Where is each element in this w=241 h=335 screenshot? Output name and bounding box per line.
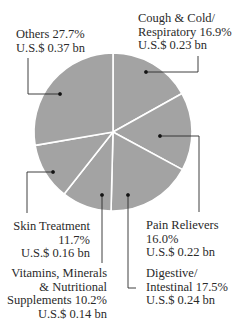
label-others-line2: U.S.$ 0.37 bn bbox=[16, 42, 85, 56]
leader-dot-vitamins bbox=[100, 193, 103, 196]
label-skin-line1: Skin Treatment bbox=[13, 220, 90, 234]
label-pain-line1: Pain Relievers bbox=[146, 219, 219, 233]
label-pain: Pain Relievers 16.0% U.S.$ 0.22 bn bbox=[146, 219, 219, 260]
label-vitamins-line1: Vitamins, Minerals bbox=[7, 267, 107, 281]
label-digestive-line3: U.S.$ 0.24 bn bbox=[146, 294, 228, 308]
pie-slice bbox=[34, 53, 113, 145]
label-pain-line3: U.S.$ 0.22 bn bbox=[146, 246, 219, 260]
label-skin-line2: 11.7% bbox=[13, 234, 90, 248]
label-skin-line3: U.S.$ 0.16 bn bbox=[13, 247, 90, 261]
label-others-line1: Others 27.7% bbox=[16, 28, 85, 42]
label-cough: Cough & Cold/ Respiratory 16.9% U.S.$ 0.… bbox=[138, 12, 232, 53]
label-digestive: Digestive/ Intestinal 17.5% U.S.$ 0.24 b… bbox=[146, 267, 228, 308]
label-digestive-line2: Intestinal 17.5% bbox=[146, 281, 228, 295]
label-vitamins-line4: U.S.$ 0.14 bn bbox=[7, 308, 107, 322]
label-digestive-line1: Digestive/ bbox=[146, 267, 228, 281]
label-cough-line2: Respiratory 16.9% bbox=[138, 26, 232, 40]
label-skin: Skin Treatment 11.7% U.S.$ 0.16 bn bbox=[13, 220, 90, 261]
label-pain-line2: 16.0% bbox=[146, 233, 219, 247]
label-cough-line1: Cough & Cold/ bbox=[138, 12, 232, 26]
label-others: Others 27.7% U.S.$ 0.37 bn bbox=[16, 28, 85, 55]
label-vitamins: Vitamins, Minerals & Nutritional Supplem… bbox=[7, 267, 107, 321]
pie-slices bbox=[34, 53, 192, 211]
leader-dot-digestive bbox=[126, 193, 129, 196]
label-vitamins-line2: & Nutritional bbox=[7, 281, 107, 295]
leader-dot-others bbox=[58, 92, 61, 95]
leader-dot-skin bbox=[51, 170, 54, 173]
label-vitamins-line3: Supplements 10.2% bbox=[7, 294, 107, 308]
leader-dot-pain bbox=[158, 134, 161, 137]
label-cough-line3: U.S.$ 0.23 bn bbox=[138, 39, 232, 53]
leader-dot-cough bbox=[144, 70, 147, 73]
